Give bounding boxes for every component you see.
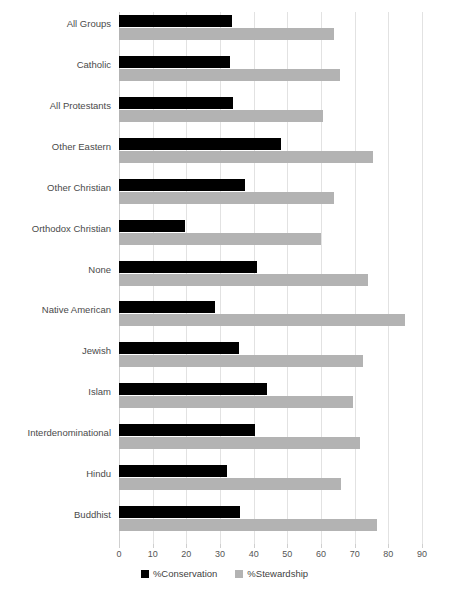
bar-conservation [119, 465, 227, 477]
bar-stewardship [119, 478, 341, 490]
category-label: Other Christian [47, 182, 111, 194]
x-tick-label: 10 [148, 549, 158, 559]
bar-conservation [119, 301, 215, 313]
plot-area: All GroupsCatholicAll ProtestantsOther E… [119, 12, 422, 544]
x-tick-label: 40 [249, 549, 259, 559]
bar-rows: All GroupsCatholicAll ProtestantsOther E… [119, 12, 422, 544]
x-tick-label: 0 [116, 549, 121, 559]
bar-stewardship [119, 355, 363, 367]
bar-conservation [119, 424, 255, 436]
bar-chart: All GroupsCatholicAll ProtestantsOther E… [0, 0, 449, 596]
bar-stewardship [119, 314, 405, 326]
bar-conservation [119, 220, 185, 232]
legend-item-conservation: %Conservation [141, 568, 217, 579]
bar-stewardship [119, 233, 321, 245]
bar-conservation [119, 383, 267, 395]
x-axis: 0102030405060708090 [119, 544, 422, 566]
bar-group: Catholic [119, 53, 422, 94]
bar-group: Orthodox Christian [119, 217, 422, 258]
bar-stewardship [119, 437, 360, 449]
category-label: Interdenominational [28, 427, 111, 439]
bar-stewardship [119, 69, 340, 81]
x-tick-mark-50 [287, 544, 288, 548]
x-tick-label: 70 [350, 549, 360, 559]
x-tick-mark-30 [220, 544, 221, 548]
bar-group: Native American [119, 298, 422, 339]
bar-conservation [119, 15, 232, 27]
bar-conservation [119, 506, 240, 518]
category-label: Jewish [82, 345, 111, 357]
category-label: Orthodox Christian [32, 223, 111, 235]
bar-group: Buddhist [119, 503, 422, 544]
x-tick-mark-20 [186, 544, 187, 548]
legend-swatch-stewardship-icon [235, 570, 243, 578]
bar-group: Interdenominational [119, 421, 422, 462]
chart-title [0, 0, 449, 8]
x-tick-mark-90 [422, 544, 423, 548]
x-tick-label: 60 [316, 549, 326, 559]
gridline-90 [422, 12, 423, 544]
bar-conservation [119, 342, 239, 354]
bar-stewardship [119, 192, 334, 204]
x-tick-label: 90 [417, 549, 427, 559]
category-label: None [88, 264, 111, 276]
bar-group: None [119, 258, 422, 299]
category-label: All Groups [67, 18, 111, 30]
x-tick-mark-10 [153, 544, 154, 548]
x-tick-mark-60 [321, 544, 322, 548]
bar-group: Hindu [119, 462, 422, 503]
category-label: Native American [42, 304, 111, 316]
bar-conservation [119, 97, 233, 109]
bar-group: Other Christian [119, 176, 422, 217]
bar-conservation [119, 261, 257, 273]
chart-legend: %Conservation %Stewardship [0, 568, 449, 579]
category-label: Islam [88, 386, 111, 398]
legend-item-stewardship: %Stewardship [235, 568, 308, 579]
category-label: All Protestants [50, 100, 111, 112]
x-tick-label: 80 [383, 549, 393, 559]
x-tick-mark-80 [388, 544, 389, 548]
x-tick-mark-0 [119, 544, 120, 548]
bar-group: Jewish [119, 339, 422, 380]
bar-stewardship [119, 396, 353, 408]
bar-conservation [119, 56, 230, 68]
bar-conservation [119, 179, 245, 191]
category-label: Other Eastern [52, 141, 111, 153]
category-label: Catholic [77, 59, 111, 71]
bar-stewardship [119, 519, 377, 531]
legend-label-conservation: %Conservation [153, 568, 217, 579]
x-tick-mark-70 [355, 544, 356, 548]
bar-stewardship [119, 28, 334, 40]
category-label: Hindu [86, 468, 111, 480]
category-label: Buddhist [74, 509, 111, 521]
x-tick-label: 50 [282, 549, 292, 559]
bar-conservation [119, 138, 281, 150]
bar-group: All Protestants [119, 94, 422, 135]
legend-swatch-conservation-icon [141, 570, 149, 578]
bar-group: Other Eastern [119, 135, 422, 176]
bar-stewardship [119, 110, 323, 122]
x-tick-label: 30 [215, 549, 225, 559]
x-tick-label: 20 [181, 549, 191, 559]
bar-stewardship [119, 274, 368, 286]
bar-group: All Groups [119, 12, 422, 53]
x-tick-mark-40 [254, 544, 255, 548]
bar-group: Islam [119, 380, 422, 421]
bar-stewardship [119, 151, 373, 163]
legend-label-stewardship: %Stewardship [247, 568, 308, 579]
